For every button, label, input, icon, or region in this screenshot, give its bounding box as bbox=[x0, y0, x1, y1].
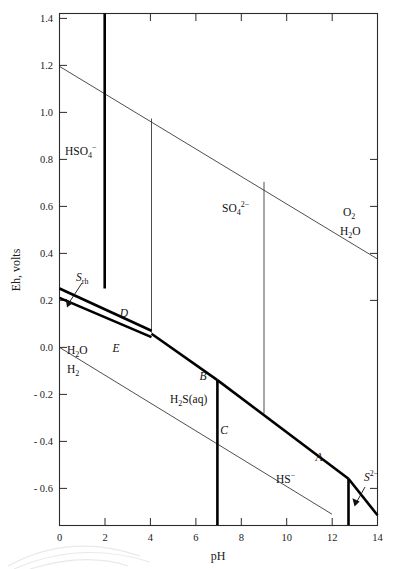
x-axis-title: pH bbox=[211, 549, 226, 563]
x-tick-label-0: 0 bbox=[57, 532, 62, 543]
y-tick-label-0-4: 0.4 bbox=[40, 248, 54, 259]
x-tick-label-14: 14 bbox=[372, 532, 383, 543]
o2-sub: 2 bbox=[351, 212, 355, 221]
species-label-hs: HS− bbox=[276, 471, 296, 485]
hs-base: HS bbox=[276, 473, 291, 485]
point-label-c: C bbox=[220, 424, 228, 436]
line-o2-h2o-upper-limit bbox=[60, 66, 378, 259]
h2s-base: H bbox=[170, 393, 178, 405]
y-tick-label-neg-0-2: - 0.2 bbox=[34, 389, 53, 400]
species-label-h2s-aq: H2S(aq) bbox=[170, 393, 207, 408]
h2o-top-tail: O bbox=[352, 225, 360, 237]
x-axis-ticks-top bbox=[105, 14, 332, 22]
y-tick-label-0-8: 0.8 bbox=[40, 154, 53, 165]
so4-sub: 4 bbox=[237, 208, 241, 217]
species-label-o2: O2 bbox=[343, 206, 355, 221]
y-tick-label-1-2: 1.2 bbox=[40, 60, 53, 71]
y-axis-ticks-right bbox=[370, 159, 378, 488]
boundary-so4-s2minus bbox=[349, 479, 378, 515]
species-label-s2minus: S2− bbox=[364, 469, 379, 483]
species-label-s-rhombic: Srh bbox=[76, 271, 88, 286]
eh-ph-chart-svg: 0 2 4 6 8 10 12 14 1.4 1.2 1.0 0.8 0.6 0… bbox=[0, 0, 408, 569]
point-label-b: B bbox=[199, 370, 206, 382]
hso4-sub: 4 bbox=[88, 151, 92, 160]
so4-base: SO bbox=[222, 202, 237, 214]
eh-ph-diagram-figure: 0 2 4 6 8 10 12 14 1.4 1.2 1.0 0.8 0.6 0… bbox=[0, 0, 408, 569]
y-tick-label-0-2: 0.2 bbox=[40, 295, 53, 306]
y-tick-label-neg-0-4: - 0.4 bbox=[34, 436, 54, 447]
scan-artifact bbox=[8, 546, 150, 569]
species-label-hso4: HSO4− bbox=[65, 143, 97, 160]
y-tick-label-0-6: 0.6 bbox=[40, 201, 53, 212]
species-label-h2o-bottom: H2O bbox=[67, 344, 88, 359]
x-tick-label-8: 8 bbox=[239, 532, 244, 543]
s2minus-sup: 2− bbox=[370, 469, 379, 478]
line-h2o-h2-lower-limit bbox=[60, 347, 333, 514]
hso4-base: HSO bbox=[65, 145, 88, 157]
x-tick-label-10: 10 bbox=[281, 532, 292, 543]
boundary-so4-hs-A bbox=[217, 380, 348, 479]
y-tick-label-1-4: 1.4 bbox=[40, 13, 54, 24]
species-label-h2: H2 bbox=[67, 363, 79, 378]
point-label-a: A bbox=[314, 451, 323, 463]
x-tick-label-2: 2 bbox=[102, 532, 107, 543]
point-label-e: E bbox=[111, 342, 119, 354]
y-axis-ticks bbox=[60, 18, 68, 488]
so4-sup: 2− bbox=[241, 200, 250, 209]
h2-sub: 2 bbox=[75, 369, 79, 378]
h2s-tail: S(aq) bbox=[182, 393, 207, 406]
hso4-sup: − bbox=[92, 143, 97, 152]
h2-base: H bbox=[67, 363, 75, 375]
y-tick-label-0-0: 0.0 bbox=[40, 342, 53, 353]
point-label-d: D bbox=[119, 307, 129, 319]
h2o-top-base: H bbox=[340, 225, 348, 237]
y-tick-label-neg-0-6: - 0.6 bbox=[34, 483, 53, 494]
y-axis-title: Eh, volts bbox=[9, 248, 23, 291]
y-tick-label-1-0: 1.0 bbox=[40, 107, 53, 118]
hs-sup: − bbox=[291, 471, 296, 480]
o2-base: O bbox=[343, 206, 351, 218]
boundary-s-rhombic-lower-E bbox=[60, 298, 152, 337]
species-label-so4: SO42− bbox=[222, 200, 250, 217]
x-tick-label-4: 4 bbox=[148, 532, 154, 543]
x-tick-label-12: 12 bbox=[327, 532, 338, 543]
h2o-bottom-tail: O bbox=[79, 344, 87, 356]
boundary-s-rhombic-upper-D bbox=[60, 289, 152, 331]
boundary-so4-h2s-B bbox=[152, 334, 218, 380]
h2o-bottom-base: H bbox=[67, 344, 75, 356]
x-tick-label-6: 6 bbox=[193, 532, 198, 543]
s-rh-sub: rh bbox=[82, 277, 89, 286]
